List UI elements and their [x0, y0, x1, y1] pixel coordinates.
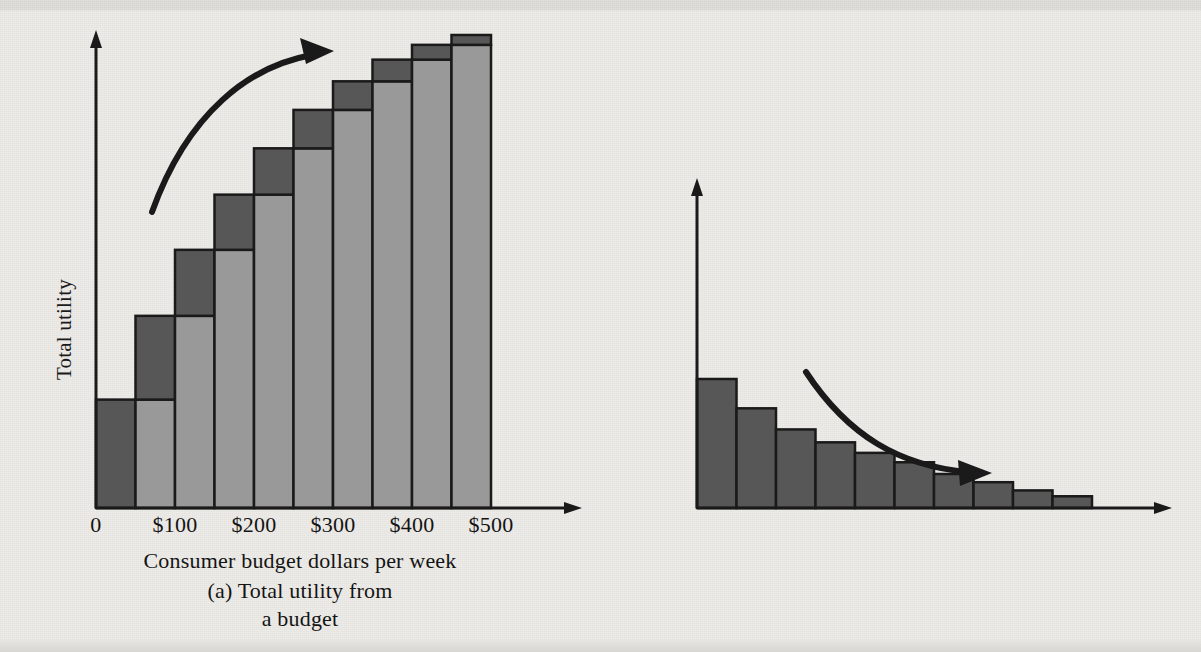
- total-utility-bar-base: [333, 110, 373, 508]
- total-utility-bar-increment: [136, 316, 176, 400]
- marginal-utility-bar: [895, 462, 935, 508]
- y-axis-arrowhead: [691, 178, 703, 196]
- figure-page: Total utility 0 $100 $200 $300 $400 $500…: [0, 0, 1201, 652]
- panel-total-utility: Total utility 0 $100 $200 $300 $400 $500…: [0, 0, 620, 652]
- total-utility-bar-base: [254, 195, 294, 508]
- panel-marginal-utility: Marginal utility 0 $100 $200 $300 $400 $…: [600, 0, 1201, 652]
- panel-caption-a-line1: (a) Total utility from: [80, 578, 520, 604]
- marginal-utility-bar: [776, 429, 816, 508]
- total-utility-bar-base: [136, 400, 176, 508]
- marginal-utility-bar: [697, 379, 737, 508]
- marginal-utility-bars: [697, 379, 1092, 508]
- total-utility-bar-increment: [215, 195, 255, 250]
- total-utility-bar-increment: [373, 60, 413, 82]
- total-utility-bar-base: [412, 60, 452, 508]
- total-utility-bar-increment: [175, 250, 215, 316]
- total-utility-bar-base: [373, 81, 413, 508]
- total-utility-bars: [96, 35, 491, 508]
- total-utility-bar-base: [452, 45, 492, 508]
- total-utility-bar-increment: [254, 148, 294, 194]
- marginal-utility-bar: [1013, 490, 1053, 508]
- panel-caption-a-line2: a budget: [80, 606, 520, 632]
- x-axis-label-a: Consumer budget dollars per week: [80, 548, 520, 574]
- marginal-utility-bar: [816, 442, 856, 508]
- total-utility-bar-base: [215, 250, 255, 508]
- total-utility-bar-increment: [412, 45, 452, 60]
- total-utility-bar-increment: [452, 35, 492, 45]
- total-utility-bar-base: [294, 148, 334, 508]
- marginal-utility-bar: [737, 408, 777, 508]
- x-axis-arrowhead: [1154, 502, 1172, 514]
- marginal-utility-bar: [855, 453, 895, 508]
- x-axis-arrowhead: [564, 502, 582, 514]
- total-utility-bar-increment: [294, 110, 334, 148]
- total-utility-bar-base: [175, 316, 215, 508]
- y-axis-arrowhead: [90, 30, 102, 48]
- marginal-utility-bar: [974, 482, 1014, 508]
- total-utility-bar-increment: [333, 81, 373, 110]
- x-tick-a-5: $500: [431, 512, 551, 538]
- marginal-utility-bar: [1053, 496, 1093, 508]
- total-utility-bar-increment: [96, 400, 136, 508]
- marginal-utility-chart: [600, 0, 1201, 652]
